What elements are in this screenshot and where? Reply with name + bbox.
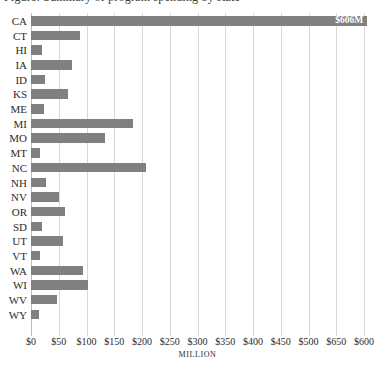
bar [31,192,59,202]
bar [31,163,146,173]
bar-row: CT [0,29,386,44]
bar-row: ME [0,102,386,117]
bar [31,133,105,143]
x-tick-label: $300 [188,336,208,347]
bar [31,251,40,261]
x-axis-title: MILLION [31,350,364,359]
bar [31,31,80,41]
bar [31,60,72,70]
category-label: ID [0,73,27,88]
category-label: OR [0,205,27,220]
x-tick-label: $50 [51,336,66,347]
bar-row: WY [0,308,386,323]
bar-row: SD [0,220,386,235]
x-axis: $0$50$100$150$200$250$300$350$400$450$50… [0,336,386,369]
figure-headline: Figure: Summary of program spending by s… [4,0,382,4]
bar [31,280,88,290]
category-label: CT [0,29,27,44]
x-tick-label: $250 [160,336,180,347]
bar [31,295,57,305]
category-label: WV [0,293,27,308]
category-label: MT [0,146,27,161]
x-tick-label: $150 [104,336,124,347]
bar [31,75,45,85]
bar [31,45,42,55]
x-tick-label: $400 [243,336,263,347]
category-label: KS [0,87,27,102]
bar [31,236,63,246]
bar-value-label: $606M [335,15,363,26]
x-tick-label: $350 [215,336,235,347]
bar [31,104,44,114]
bar-row: ID [0,73,386,88]
category-label: WY [0,308,27,323]
bar [31,310,39,320]
category-label: WA [0,264,27,279]
bar-chart-plot: CA$606MCTHIIAIDKSMEMIMOMTNCNHNVORSDUTVTW… [0,13,386,336]
bar [31,119,133,129]
bar [31,266,83,276]
category-label: VT [0,249,27,264]
category-label: IA [0,58,27,73]
category-label: HI [0,43,27,58]
bar [31,178,46,188]
category-label: NC [0,161,27,176]
bar-row: WA [0,264,386,279]
chart-page: Figure: Summary of program spending by s… [0,0,386,369]
category-label: MI [0,117,27,132]
category-label: NV [0,190,27,205]
bar-row: NC [0,161,386,176]
bar-row: HI [0,43,386,58]
category-label: WI [0,278,27,293]
bar [31,222,42,232]
category-label: NH [0,176,27,191]
bar-row: UT [0,234,386,249]
bar-row: OR [0,205,386,220]
bar [31,148,40,158]
category-label: SD [0,220,27,235]
bar-row: KS [0,87,386,102]
bar-row: MO [0,131,386,146]
bar-row: CA$606M [0,14,386,29]
x-tick-label: $500 [299,336,319,347]
category-label: ME [0,102,27,117]
bar-row: IA [0,58,386,73]
x-tick-label: $600 [354,336,374,347]
bar-row: NV [0,190,386,205]
category-label: MO [0,131,27,146]
bar-row: MI [0,117,386,132]
bar [31,89,68,99]
x-tick-label: $200 [132,336,152,347]
bar-row: VT [0,249,386,264]
bar-row: MT [0,146,386,161]
category-label: UT [0,234,27,249]
x-tick-label: $650 [326,336,346,347]
category-label: CA [0,14,27,29]
bar-row: NH [0,176,386,191]
x-tick-label: $450 [271,336,291,347]
x-tick-label: $100 [77,336,97,347]
x-tick-label: $0 [26,336,36,347]
bar [31,207,65,217]
bar-row: WI [0,278,386,293]
bar-row: WV [0,293,386,308]
bar [31,16,367,26]
